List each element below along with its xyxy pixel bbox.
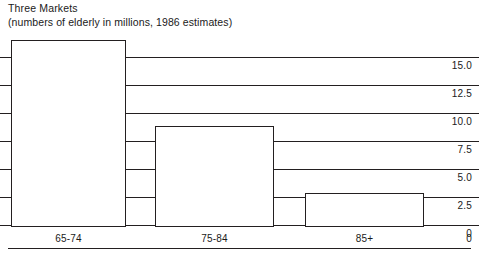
x-axis-category-label: 65-74: [11, 233, 126, 244]
chart-container: Three Markets (numbers of elderly in mil…: [0, 0, 479, 263]
y-axis-tick-label: 12.5: [452, 88, 472, 99]
x-axis-category-label: 75-84: [155, 233, 274, 244]
bar: [11, 40, 126, 226]
bar: [155, 126, 274, 226]
y-axis-tick-label: 5.0: [457, 172, 472, 183]
y-axis-tick-label: 2.5: [457, 200, 472, 211]
bar: [305, 193, 424, 227]
y-axis-tick-label: 7.5: [457, 144, 472, 155]
x-axis-category-label: 85+: [305, 233, 424, 244]
y-axis-tick-label: 15.0: [452, 60, 472, 71]
bottom-rule: [8, 248, 471, 249]
y-axis-zero-label: 0: [466, 233, 472, 244]
y-axis-tick-label: 10.0: [452, 116, 472, 127]
plot-area: 15.012.510.07.55.02.5065-7475-8485+0: [0, 0, 479, 263]
